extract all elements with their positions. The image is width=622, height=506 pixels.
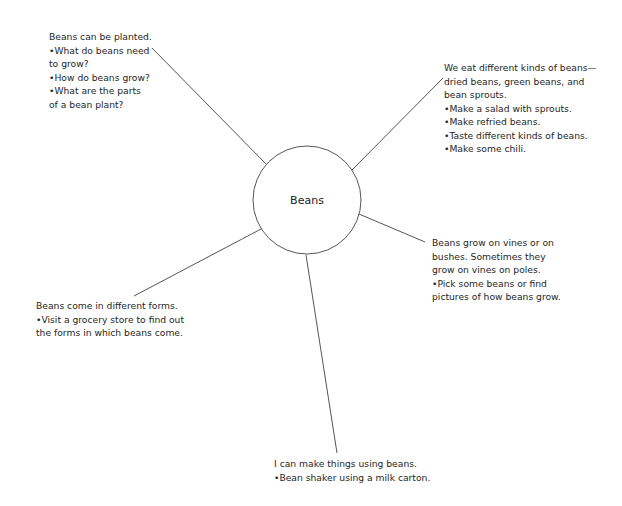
note-line: pictures of how beans grow. — [432, 290, 561, 304]
note-line: •What are the parts — [49, 84, 152, 98]
connector-grow — [359, 214, 425, 242]
connector-planted — [152, 48, 266, 164]
note-line: I can make things using beans. — [274, 457, 430, 471]
note-line: Beans come in different forms. — [36, 299, 184, 313]
connector-forms — [134, 229, 261, 296]
connector-make — [306, 255, 337, 453]
center-label: Beans — [290, 194, 324, 207]
note-line: to grow? — [49, 57, 152, 71]
connector-eat — [352, 78, 443, 170]
note-line: •How do beans grow? — [49, 71, 152, 85]
note-line: We eat different kinds of beans— — [444, 61, 597, 75]
note-line: the forms in which beans come. — [36, 326, 184, 340]
note-line: Beans can be planted. — [49, 30, 152, 44]
note-line: •Pick some beans or find — [432, 277, 561, 291]
note-forms: Beans come in different forms. •Visit a … — [36, 299, 184, 340]
note-line: grow on vines on poles. — [432, 263, 561, 277]
note-line: •Make refried beans. — [444, 115, 597, 129]
note-line: bean sprouts. — [444, 88, 597, 102]
note-eat: We eat different kinds of beans— dried b… — [444, 61, 597, 156]
note-line: •Make a salad with sprouts. — [444, 102, 597, 116]
note-line: •Make some chili. — [444, 142, 597, 156]
note-planted: Beans can be planted. •What do beans nee… — [49, 30, 152, 111]
note-line: •What do beans need — [49, 44, 152, 58]
note-line: •Bean shaker using a milk carton. — [274, 471, 430, 485]
note-make: I can make things using beans. •Bean sha… — [274, 457, 430, 484]
note-line: •Taste different kinds of beans. — [444, 129, 597, 143]
note-grow: Beans grow on vines or on bushes. Someti… — [432, 236, 561, 304]
note-line: of a bean plant? — [49, 98, 152, 112]
note-line: Beans grow on vines or on — [432, 236, 561, 250]
note-line: bushes. Sometimes they — [432, 250, 561, 264]
note-line: dried beans, green beans, and — [444, 75, 597, 89]
note-line: •Visit a grocery store to find out — [36, 313, 184, 327]
